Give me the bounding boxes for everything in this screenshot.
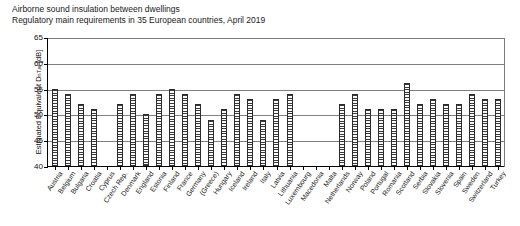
bar-slot: [74, 104, 87, 166]
bar-slot: [87, 109, 100, 166]
bar: [365, 109, 371, 166]
bar: [221, 109, 227, 166]
bar-slot: [387, 109, 400, 166]
bar-slot: [270, 99, 283, 166]
bar-slot: [126, 94, 139, 166]
bar-slot: [374, 109, 387, 166]
bar: [456, 104, 462, 166]
chart-container: Airborne sound insulation between dwelli…: [0, 0, 520, 226]
bar-slot: [283, 94, 296, 166]
bar-slot: [218, 109, 231, 166]
bar-slot: [61, 94, 74, 166]
bar-slot: [348, 94, 361, 166]
bar: [247, 99, 253, 166]
bar: [156, 94, 162, 166]
bar: [65, 94, 71, 166]
bar-slot: [414, 104, 427, 166]
chart-title: Airborne sound insulation between dwelli…: [12, 4, 412, 15]
bar: [195, 104, 201, 166]
bar: [91, 109, 97, 166]
bar: [234, 94, 240, 166]
bar: [443, 104, 449, 166]
bar: [495, 99, 501, 166]
bar-slot: [492, 99, 505, 166]
bar-slot: [257, 120, 270, 166]
bar: [169, 89, 175, 166]
y-tick-label-40: 40: [24, 163, 43, 171]
bar: [352, 94, 358, 166]
bar-slot: [453, 104, 466, 166]
bar-slot: [205, 120, 218, 166]
bar: [130, 94, 136, 166]
y-tick-label-65: 65: [24, 34, 43, 42]
y-tick-40: [44, 167, 48, 168]
y-tick-label-60: 60: [24, 60, 43, 68]
bar: [182, 94, 188, 166]
bar: [287, 94, 293, 166]
y-tick-label-45: 45: [24, 137, 43, 145]
bar-slot: [231, 94, 244, 166]
bar: [78, 104, 84, 166]
bar-slot: [139, 114, 152, 166]
y-tick-label-55: 55: [24, 86, 43, 94]
bar-slot: [335, 104, 348, 166]
bar-slot: [192, 104, 205, 166]
x-axis-labels: AustriaBelgiumBulgariaCroatiaCyprusCzech…: [47, 170, 504, 226]
bar-slot: [427, 99, 440, 166]
chart-title-block: Airborne sound insulation between dwelli…: [12, 4, 412, 26]
bar: [469, 94, 475, 166]
bar-slot: [401, 83, 414, 166]
bar: [391, 109, 397, 166]
bar: [260, 120, 266, 166]
bar-slot: [244, 99, 257, 166]
bar: [378, 109, 384, 166]
bar: [143, 114, 149, 166]
bar: [430, 99, 436, 166]
bar-slot: [113, 104, 126, 166]
bar-slot: [152, 94, 165, 166]
bar: [404, 83, 410, 166]
bar: [482, 99, 488, 166]
bar-slot: [166, 89, 179, 166]
bar: [208, 120, 214, 166]
bar: [339, 104, 345, 166]
bar-slot: [479, 99, 492, 166]
bar-slot: [361, 109, 374, 166]
bar: [273, 99, 279, 166]
bar-slot: [48, 89, 61, 166]
bar-slot: [440, 104, 453, 166]
bar: [52, 89, 58, 166]
chart-subtitle: Regulatory main requirements in 35 Europ…: [12, 15, 412, 26]
bar: [117, 104, 123, 166]
bars-group: [48, 37, 504, 166]
y-tick-label-50: 50: [24, 111, 43, 119]
bar: [417, 104, 423, 166]
bar-slot: [179, 94, 192, 166]
plot-area: Estimated Equivalent DnT,w [dB] 40455055…: [47, 38, 504, 167]
bar-slot: [466, 94, 479, 166]
